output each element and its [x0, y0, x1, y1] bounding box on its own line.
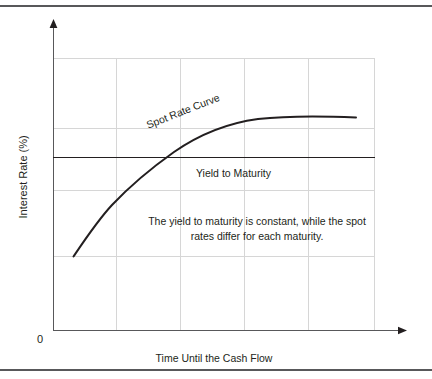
x-axis-arrowhead	[398, 327, 407, 334]
origin-tick-label: 0	[37, 333, 43, 347]
chart-annotation-text: The yield to maturity is constant, while…	[148, 214, 366, 244]
y-axis-arrowhead	[50, 19, 58, 28]
figure-container: Interest Rate (%) Time Until the Cash Fl…	[0, 0, 432, 379]
x-axis-title: Time Until the Cash Flow	[53, 352, 375, 365]
chart-plot-area	[0, 0, 432, 379]
yield-to-maturity-label: Yield to Maturity	[196, 167, 271, 180]
y-axis-title: Interest Rate (%)	[17, 117, 31, 237]
